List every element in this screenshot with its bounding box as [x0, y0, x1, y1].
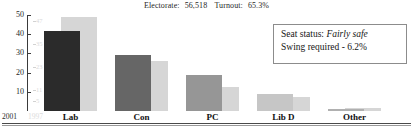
election-bar-chart: Electorate: 56,518 Turnout: 65.3% 504030…	[0, 0, 413, 128]
y-tick-label: 20	[0, 68, 24, 77]
x-axis-label-pc: PC	[176, 112, 249, 122]
seat-status-label: Seat status:	[281, 29, 324, 39]
x-axis-label-other: Other	[318, 112, 391, 122]
y-axis-line	[27, 15, 28, 111]
turnout-label: Turnout:	[214, 1, 243, 10]
seat-status-line: Seat status: Fairly safe	[281, 28, 406, 41]
electorate-value: 56,518	[185, 1, 208, 10]
x-axis-label-lab: Lab	[34, 112, 107, 122]
swing-required-line: Swing required - 6.2%	[281, 41, 406, 54]
chart-header: Electorate: 56,518 Turnout: 65.3%	[0, 1, 413, 10]
seat-info-box: Seat status: Fairly safe Swing required …	[273, 24, 407, 64]
legend-year-2001: 2001	[2, 112, 17, 121]
y-tick-label: 40	[0, 29, 24, 38]
electorate-label: Electorate:	[144, 1, 180, 10]
y-tick-mark	[27, 15, 31, 16]
y-tick-mark	[27, 92, 31, 93]
y-tick-label-secondary: 47	[36, 17, 50, 24]
y-tick-label: 50	[0, 10, 24, 19]
bar-2001	[186, 75, 222, 111]
x-axis-label-lib-d: Lib D	[247, 112, 320, 122]
legend-year-1997: 1997	[28, 112, 43, 121]
bar-2001	[328, 109, 364, 111]
x-axis-label-con: Con	[105, 112, 178, 122]
bar-2001	[44, 31, 80, 111]
y-tick-label: 10	[0, 87, 24, 96]
bar-2001	[115, 55, 151, 111]
turnout-value: 65.3%	[248, 1, 269, 10]
y-tick-mark	[27, 53, 31, 54]
y-tick-mark	[27, 34, 31, 35]
y-tick-mark	[27, 73, 31, 74]
y-tick-label: 30	[0, 48, 24, 57]
seat-status-value: Fairly safe	[326, 29, 367, 39]
footer-rule-secondary	[2, 125, 411, 126]
bar-2001	[257, 94, 293, 111]
footer-rule	[2, 123, 411, 124]
